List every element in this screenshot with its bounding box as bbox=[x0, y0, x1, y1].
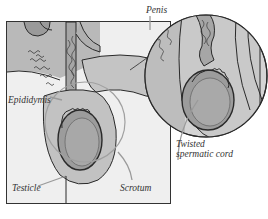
label-twisted: Twisted bbox=[176, 139, 205, 149]
label-penis: Penis bbox=[145, 5, 167, 15]
label-epididymis: Epididymis bbox=[7, 95, 51, 105]
label-scrotum: Scrotum bbox=[120, 183, 151, 193]
anatomy-illustration: Penis Epididymis Testicle Scrotum Twiste… bbox=[0, 0, 268, 219]
label-spermatic-cord: spermatic cord bbox=[176, 149, 233, 159]
label-testicle: Testicle bbox=[12, 183, 41, 193]
